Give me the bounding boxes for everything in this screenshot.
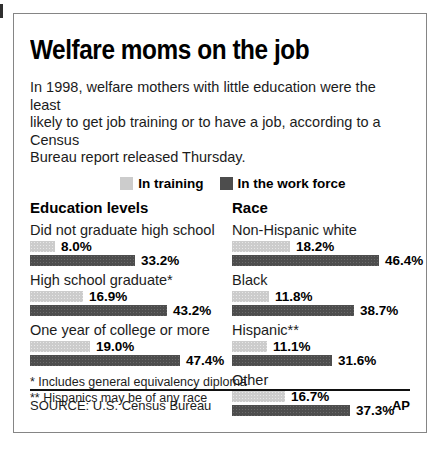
training-bar (30, 291, 83, 302)
footer-rule (30, 389, 410, 391)
intro-line: Bureau report released Thursday. (30, 149, 410, 167)
training-bar (232, 241, 290, 252)
workforce-bar (232, 255, 379, 266)
category-label: Did not graduate high school (30, 223, 232, 238)
workforce-bar-row: 33.2% (30, 255, 232, 266)
workforce-bar-row: 46.4% (232, 255, 423, 266)
workforce-bar-row: 47.4% (30, 355, 232, 366)
value-label: 19.0% (96, 341, 134, 352)
workforce-bar (30, 255, 135, 266)
intro-text: In 1998, welfare mothers with little edu… (30, 79, 410, 167)
category-block: One year of college or more19.0%47.4% (30, 323, 232, 366)
value-label: 46.4% (385, 255, 423, 266)
intro-line: In 1998, welfare mothers with little edu… (30, 79, 410, 114)
category-block: High school graduate*16.9%43.2% (30, 273, 232, 316)
value-label: 16.9% (89, 291, 127, 302)
training-bar (232, 341, 267, 352)
training-bar-row: 19.0% (30, 341, 232, 352)
value-label: 43.2% (173, 305, 211, 316)
training-bar-row: 16.9% (30, 291, 232, 302)
training-bar-row: 11.1% (232, 341, 423, 352)
credit-text: AP (392, 398, 410, 413)
value-label: 38.7% (360, 305, 398, 316)
legend: In training In the work force (56, 176, 410, 191)
category-label: Non-Hispanic white (232, 223, 423, 238)
category-label: One year of college or more (30, 323, 232, 338)
workforce-bar-row: 31.6% (232, 355, 423, 366)
education-categories: Did not graduate high school8.0%33.2%Hig… (30, 223, 232, 366)
training-bar (30, 341, 90, 352)
value-label: 18.2% (296, 241, 334, 252)
category-label: High school graduate* (30, 273, 232, 288)
graphic-title: Welfare moms on the job (30, 34, 361, 66)
race-heading: Race (232, 199, 423, 216)
workforce-bar (30, 355, 180, 366)
category-block: Non-Hispanic white18.2%46.4% (232, 223, 423, 266)
workforce-swatch-icon (220, 177, 233, 190)
value-label: 47.4% (186, 355, 224, 366)
footer-row: SOURCE: U.S. Census Bureau AP (30, 398, 410, 413)
value-label: 33.2% (141, 255, 179, 266)
category-label: Hispanic** (232, 323, 423, 338)
category-block: Did not graduate high school8.0%33.2% (30, 223, 232, 266)
value-label: 11.1% (273, 341, 311, 352)
legend-label-training: In training (138, 176, 203, 191)
value-label: 31.6% (338, 355, 376, 366)
legend-label-workforce: In the work force (238, 176, 346, 191)
workforce-bar (232, 355, 332, 366)
source-text: SOURCE: U.S. Census Bureau (30, 398, 211, 413)
education-heading: Education levels (30, 199, 232, 216)
value-label: 8.0% (61, 241, 92, 252)
category-label: Black (232, 273, 423, 288)
workforce-bar-row: 43.2% (30, 305, 232, 316)
training-bar (232, 291, 269, 302)
workforce-bar-row: 38.7% (232, 305, 423, 316)
category-label: Other (232, 373, 423, 388)
scan-artifact (0, 4, 3, 18)
race-categories: Non-Hispanic white18.2%46.4%Black11.8%38… (232, 223, 423, 416)
footer: SOURCE: U.S. Census Bureau AP (30, 389, 410, 413)
intro-line: likely to get job training or to have a … (30, 114, 410, 149)
workforce-bar (232, 305, 354, 316)
legend-item-training: In training (120, 176, 203, 191)
value-label: 11.8% (275, 291, 313, 302)
training-swatch-icon (120, 177, 133, 190)
category-block: Black11.8%38.7% (232, 273, 423, 316)
footnote: * Includes general equivalency diploma (30, 374, 232, 390)
legend-item-workforce: In the work force (220, 176, 346, 191)
news-graphic-frame: Welfare moms on the job In 1998, welfare… (13, 13, 427, 433)
training-bar (30, 241, 55, 252)
workforce-bar (30, 305, 167, 316)
training-bar-row: 18.2% (232, 241, 423, 252)
training-bar-row: 11.8% (232, 291, 423, 302)
category-block: Hispanic**11.1%31.6% (232, 323, 423, 366)
training-bar-row: 8.0% (30, 241, 232, 252)
